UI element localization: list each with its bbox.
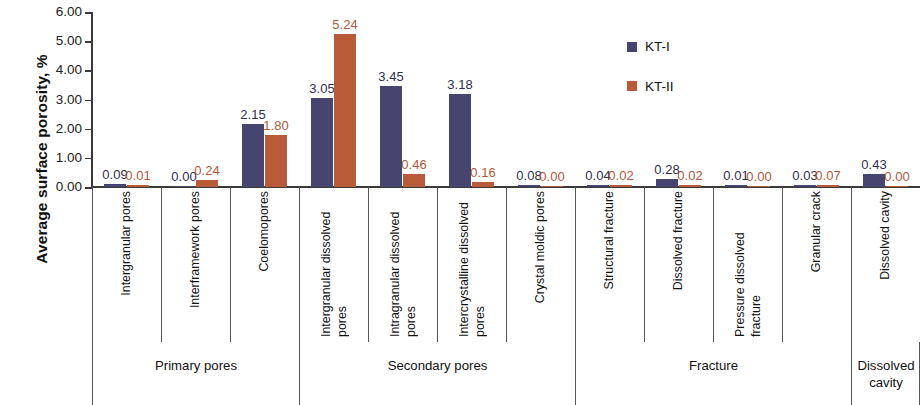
y-axis-tick-label: 3.00	[34, 93, 82, 107]
y-axis-tick-mark	[85, 158, 92, 160]
category-label: Intragranular dissolved pores	[388, 191, 419, 337]
category-label-cell: Intergranular dissolved pores	[299, 187, 368, 342]
bar-group: 0.430.00	[851, 12, 920, 187]
bar-value-label: 0.00	[739, 170, 779, 183]
bar-group: 2.151.80	[230, 12, 299, 187]
category-label: Intergranular pores	[119, 191, 135, 296]
bar-value-label: 1.80	[256, 119, 296, 132]
bar[interactable]	[380, 86, 402, 187]
bar-group: 0.080.00	[506, 12, 575, 187]
category-label-wrap: Crystal moldic pores	[507, 187, 575, 342]
category-label-wrap: Granular crack	[783, 187, 851, 342]
legend-label: KT-I	[645, 40, 670, 54]
category-label-wrap: Intergranular pores	[93, 187, 161, 342]
bar-group: 3.450.46	[368, 12, 437, 187]
category-label-cell: Intercrystalline dissolved pores	[437, 187, 506, 342]
category-label-wrap: Dissolved fracture	[645, 187, 713, 342]
y-axis-tick-mark	[85, 70, 92, 72]
category-label-cell: Structural fracture	[575, 187, 644, 342]
group-label: Fracture	[689, 358, 738, 375]
y-axis-tick-labels: 6.005.004.003.002.001.000.00	[30, 0, 82, 200]
category-label-cell: Interframework pores	[161, 187, 230, 342]
category-label-wrap: Interframework pores	[162, 187, 230, 342]
category-label-wrap: Coelomopores	[231, 187, 299, 342]
y-axis-tick-label: 2.00	[34, 122, 82, 136]
legend-color-swatch	[627, 81, 637, 91]
group-label-cell: Primary pores	[92, 342, 299, 405]
bar-group: 0.000.24	[161, 12, 230, 187]
legend-item[interactable]: KT-II	[627, 80, 674, 94]
group-label: Primary pores	[155, 358, 237, 375]
bar-value-label: 0.02	[601, 169, 641, 182]
category-label-wrap: Dissolved cavity	[852, 187, 920, 342]
category-label-cell: Coelomopores	[230, 187, 299, 342]
plot-area: 0.090.010.000.242.151.803.055.243.450.46…	[92, 12, 920, 187]
y-axis-tick-label: 6.00	[34, 5, 82, 19]
bar-value-label: 0.24	[187, 164, 227, 177]
group-label-cell: Dissolved cavity	[851, 342, 920, 405]
category-label-wrap: Structural fracture	[576, 187, 644, 342]
category-label: Coelomopores	[257, 191, 273, 272]
bar[interactable]	[265, 135, 287, 188]
bar-value-label: 5.24	[325, 18, 365, 31]
category-label: Interframework pores	[188, 191, 204, 308]
bar-value-label: 0.16	[463, 166, 503, 179]
y-axis-tick-mark	[85, 41, 92, 43]
bar-value-label: 0.07	[808, 169, 848, 182]
category-label-cell: Dissolved cavity	[851, 187, 920, 342]
group-label: Secondary pores	[388, 358, 488, 375]
bar-group: 3.180.16	[437, 12, 506, 187]
bar-value-label: 0.46	[394, 158, 434, 171]
y-axis-tick-label: 4.00	[34, 63, 82, 77]
category-label: Structural fracture	[602, 191, 618, 289]
category-label: Pressure dissolved fracture	[733, 191, 764, 337]
legend-color-swatch	[627, 42, 637, 52]
category-label-cell: Granular crack	[782, 187, 851, 342]
bar-group: 3.055.24	[299, 12, 368, 187]
y-axis-tick-mark	[85, 129, 92, 131]
category-label-wrap: Intercrystalline dissolved pores	[438, 187, 506, 342]
y-axis-tick-mark	[85, 12, 92, 14]
category-label-cell: Pressure dissolved fracture	[713, 187, 782, 342]
category-label-cell: Intergranular pores	[92, 187, 161, 342]
category-label-cell: Intragranular dissolved pores	[368, 187, 437, 342]
bar[interactable]	[403, 174, 425, 187]
category-group-labels: Primary poresSecondary poresFractureDiss…	[92, 342, 920, 405]
y-axis-tick-label: 0.00	[34, 180, 82, 194]
group-label-cell: Secondary pores	[299, 342, 575, 405]
legend-item[interactable]: KT-I	[627, 40, 674, 54]
category-axis-labels: Intergranular poresInterframework poresC…	[92, 187, 920, 342]
y-axis-tick-mark	[85, 100, 92, 102]
bar-value-label: 0.02	[670, 169, 710, 182]
category-label-wrap: Intragranular dissolved pores	[369, 187, 437, 342]
legend-label: KT-II	[645, 80, 674, 94]
bar-value-label: 0.00	[532, 170, 572, 183]
group-label-cell: Fracture	[575, 342, 851, 405]
bar[interactable]	[242, 124, 264, 187]
y-axis-tick-mark	[85, 187, 92, 189]
bar-group: 0.090.01	[92, 12, 161, 187]
bar-value-label: 0.01	[118, 169, 158, 182]
category-label: Intercrystalline dissolved pores	[457, 191, 488, 337]
group-label: Dissolved cavity	[852, 358, 920, 391]
category-label-wrap: Pressure dissolved fracture	[714, 187, 782, 342]
category-label-cell: Dissolved fracture	[644, 187, 713, 342]
category-label: Dissolved cavity	[878, 191, 894, 280]
bar-value-label: 3.18	[440, 78, 480, 91]
bar-group: 0.010.00	[713, 12, 782, 187]
category-label: Granular crack	[809, 191, 825, 272]
bar[interactable]	[196, 180, 218, 187]
chart-legend: KT-IKT-II	[627, 40, 674, 119]
bar-group: 0.030.07	[782, 12, 851, 187]
category-label: Dissolved fracture	[671, 191, 687, 290]
category-label: Crystal moldic pores	[533, 191, 549, 303]
bar-chart: Average surface porosity, % 6.005.004.00…	[0, 0, 920, 405]
category-label-cell: Crystal moldic pores	[506, 187, 575, 342]
category-label: Intergranular dissolved pores	[319, 191, 350, 337]
y-axis-tick-label: 1.00	[34, 151, 82, 165]
category-label-wrap: Intergranular dissolved pores	[300, 187, 368, 342]
bar[interactable]	[334, 34, 356, 187]
bar-value-label: 0.00	[877, 170, 917, 183]
bar[interactable]	[311, 98, 333, 187]
bar-value-label: 3.45	[371, 70, 411, 83]
